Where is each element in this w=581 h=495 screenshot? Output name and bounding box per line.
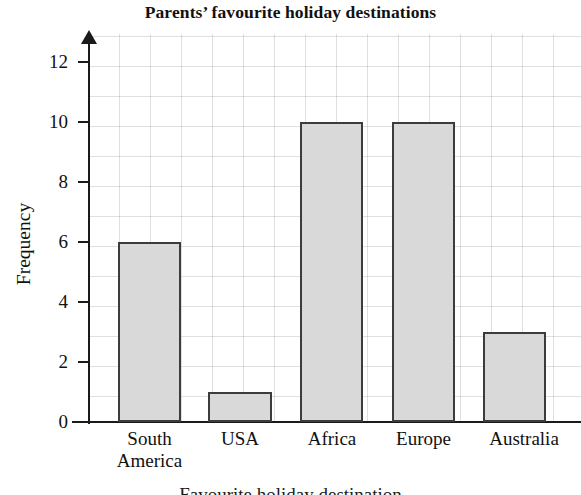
x-category-label-europe: Europe xyxy=(375,428,472,450)
x-category-label-australia: Australia xyxy=(468,428,580,450)
bar-africa[interactable] xyxy=(300,122,363,422)
x-category-label-africa: Africa xyxy=(286,428,378,450)
y-tick-label-0: 0 xyxy=(59,412,69,431)
y-axis-line xyxy=(88,38,90,424)
y-tick-label-10: 10 xyxy=(49,112,68,131)
y-tick-0 xyxy=(78,421,90,423)
x-axis-title: Favourite holiday destination xyxy=(0,484,581,495)
y-tick-4 xyxy=(78,301,90,303)
y-tick-12 xyxy=(78,61,90,63)
chart-canvas: Parents’ favourite holiday destinations … xyxy=(0,0,581,495)
x-category-label-south-america: South America xyxy=(99,428,200,472)
x-category-label-usa: USA xyxy=(200,428,280,450)
bar-europe[interactable] xyxy=(392,122,455,422)
y-tick-6 xyxy=(78,241,90,243)
y-tick-label-6: 6 xyxy=(59,232,69,251)
bar-usa[interactable] xyxy=(208,392,272,422)
chart-title: Parents’ favourite holiday destinations xyxy=(0,2,581,23)
bar-australia[interactable] xyxy=(483,332,546,422)
y-tick-8 xyxy=(78,181,90,183)
y-tick-label-2: 2 xyxy=(59,352,69,371)
y-tick-10 xyxy=(78,121,90,123)
y-tick-label-8: 8 xyxy=(59,172,69,191)
bar-south-america[interactable] xyxy=(118,242,181,422)
y-axis-title: Frequency xyxy=(13,174,35,314)
y-tick-label-4: 4 xyxy=(59,292,69,311)
y-tick-2 xyxy=(78,361,90,363)
y-tick-label-12: 12 xyxy=(49,52,68,71)
